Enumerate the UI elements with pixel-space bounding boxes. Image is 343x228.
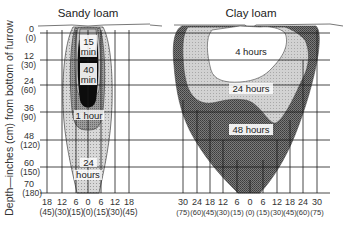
svg-text:min: min [81,46,96,57]
svg-text:(15): (15) [230,208,244,217]
panel-title-clay-loam: Clay loam [225,7,276,19]
svg-text:(30): (30) [54,207,69,217]
svg-text:(45): (45) [122,207,137,217]
svg-text:18: 18 [124,197,134,207]
svg-text:(45): (45) [203,208,217,217]
svg-text:(30): (30) [270,208,284,217]
svg-text:24: 24 [192,197,202,207]
svg-text:18: 18 [205,197,215,207]
svg-text:0: 0 [85,197,90,207]
y-axis-ticks: 0 (0) 12 (30) 24 (60) 36 (90) 48 (120) 6… [20,24,42,198]
svg-text:(45): (45) [283,208,297,217]
svg-text:hours: hours [76,169,100,180]
water-infiltration-diagram: Depth—inches (cm) from bottom of furrow … [0,0,343,228]
svg-text:(45): (45) [39,207,54,217]
svg-text:(15): (15) [68,207,83,217]
label-4-hours: 4 hours [235,46,267,57]
label-24-hours-clay: 24 hours [233,83,270,94]
svg-text:(75): (75) [176,208,190,217]
svg-text:12: 12 [110,197,120,207]
label-24-hours-sandy: 24 [83,157,94,168]
svg-text:12: 12 [57,197,67,207]
svg-text:(90): (90) [21,112,36,122]
svg-text:(15): (15) [93,207,108,217]
svg-text:24: 24 [298,197,308,207]
sandy-x-axis-ticks: 18 12 6 0 6 12 18 (45) (30) (15) (0) (15… [39,197,137,217]
svg-text:6: 6 [98,197,103,207]
svg-text:12: 12 [272,197,282,207]
svg-text:6: 6 [234,197,239,207]
panel-title-sandy-loam: Sandy loam [58,7,119,19]
svg-text:(15): (15) [256,208,270,217]
svg-text:(150): (150) [20,167,40,177]
svg-text:(30): (30) [216,208,230,217]
svg-text:(60): (60) [190,208,204,217]
svg-text:18: 18 [42,197,52,207]
svg-text:(0): (0) [83,207,94,217]
svg-text:12: 12 [218,197,228,207]
svg-text:0: 0 [247,197,252,207]
svg-text:6: 6 [73,197,78,207]
label-1-hour: 1 hour [76,110,103,121]
clay-x-axis-ticks: 30 24 18 12 6 0 6 12 18 24 30 (75) (60) … [176,197,324,217]
svg-text:30: 30 [312,197,322,207]
svg-text:18: 18 [285,197,295,207]
svg-text:min: min [81,74,96,85]
soil-surface-sandy [38,24,150,26]
svg-text:(0): (0) [26,33,37,43]
svg-text:(0): (0) [245,208,255,217]
label-48-hours: 48 hours [233,124,270,135]
y-axis-label: Depth—inches (cm) from bottom of furrow [3,20,15,216]
svg-text:(180): (180) [22,188,42,198]
svg-text:(30): (30) [21,60,36,70]
svg-text:(75): (75) [310,208,324,217]
svg-text:30: 30 [178,197,188,207]
svg-text:(60): (60) [21,85,36,95]
svg-text:(120): (120) [20,140,40,150]
svg-text:6: 6 [260,197,265,207]
svg-text:(30): (30) [107,207,122,217]
svg-text:(60): (60) [296,208,310,217]
